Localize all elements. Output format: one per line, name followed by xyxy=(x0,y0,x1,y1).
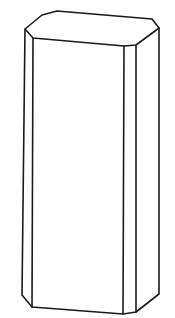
prism-svg xyxy=(0,0,175,318)
front-right-edge xyxy=(123,46,124,314)
left-chamfer-edge xyxy=(32,38,33,307)
top-face-front-edge xyxy=(25,28,159,46)
prism-outline xyxy=(22,11,159,314)
